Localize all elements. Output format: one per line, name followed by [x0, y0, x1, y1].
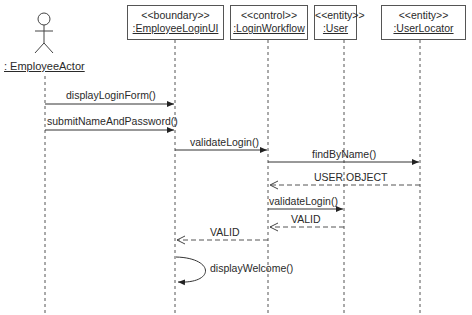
stereotype-label: <<entity>>: [315, 9, 356, 22]
message-validate-login-control: validateLogin(): [190, 136, 259, 148]
lifeline-box-user-locator: <<entity>> :UserLocator: [381, 5, 466, 40]
message-find-by-name: findByName(): [312, 148, 376, 160]
stereotype-label: <<boundary>>: [128, 9, 223, 22]
message-display-welcome: displayWelcome(): [210, 262, 293, 274]
object-name: :LoginWorkflow: [231, 22, 307, 35]
message-valid-return-user: VALID: [291, 213, 321, 225]
object-name: :EmployeeLoginUI: [128, 22, 223, 35]
actor-figure-icon: [35, 13, 53, 53]
message-display-login-form: displayLoginForm(): [66, 89, 156, 101]
lifeline-box-user: <<entity>> :User: [314, 5, 357, 40]
message-valid-return-control: VALID: [210, 226, 240, 238]
lifeline-box-employee-login-ui: <<boundary>> :EmployeeLoginUI: [127, 5, 224, 40]
message-submit-name-and-password: submitNameAndPassword(): [47, 115, 178, 127]
stereotype-label: <<entity>>: [382, 9, 465, 22]
message-validate-login-user: validateLogin(): [269, 195, 338, 207]
object-name: :UserLocator: [382, 22, 465, 35]
actor-employee: : EmployeeActor: [4, 60, 85, 72]
lifeline-box-login-workflow: <<control>> :LoginWorkflow: [230, 5, 308, 40]
stereotype-label: <<control>>: [231, 9, 307, 22]
sequence-diagram: : EmployeeActor <<boundary>> :EmployeeLo…: [0, 0, 472, 315]
object-name: :User: [315, 22, 356, 35]
message-user-object-return: USER OBJECT: [314, 171, 388, 183]
